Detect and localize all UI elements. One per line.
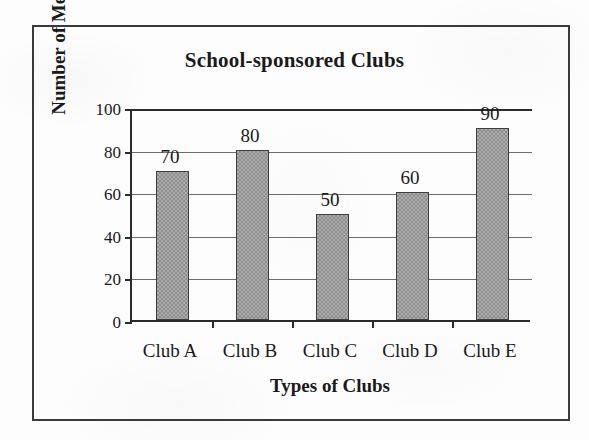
y-tick-label-100: 100 — [96, 101, 122, 118]
bar-club-a — [156, 171, 189, 320]
y-tick-label-0: 0 — [113, 314, 122, 331]
x-category-label-club-c: Club C — [303, 341, 357, 360]
bar-value-club-b: 80 — [241, 126, 260, 145]
y-tick-20 — [125, 279, 132, 281]
bar-club-e — [476, 128, 509, 320]
chart-page: School-sponsored Clubs Number of Members… — [0, 0, 589, 440]
y-tick-label-80: 80 — [104, 143, 121, 160]
y-tick-label-60: 60 — [104, 186, 121, 203]
y-tick-40 — [125, 237, 132, 239]
x-tick-4 — [452, 320, 454, 328]
y-tick-60 — [125, 194, 132, 196]
plot-area: 020406080100 — [130, 109, 530, 322]
gridline-80 — [132, 152, 532, 153]
bar-value-club-e: 90 — [481, 104, 500, 123]
x-tick-3 — [372, 320, 374, 328]
chart-title: School-sponsored Clubs — [0, 48, 589, 73]
bar-club-c — [316, 214, 349, 321]
y-tick-label-20: 20 — [104, 271, 121, 288]
x-tick-2 — [292, 320, 294, 328]
gridline-100 — [132, 109, 532, 111]
bar-value-club-c: 50 — [321, 190, 340, 209]
bar-value-club-a: 70 — [161, 147, 180, 166]
y-tick-80 — [125, 152, 132, 154]
x-category-label-club-b: Club B — [223, 341, 277, 360]
bar-club-b — [236, 150, 269, 320]
y-tick-0 — [125, 322, 132, 324]
y-tick-label-40: 40 — [104, 228, 121, 245]
y-tick-100 — [125, 109, 132, 111]
y-axis-title: Number of Members — [46, 0, 72, 136]
x-axis-title: Types of Clubs — [130, 375, 530, 397]
x-category-label-club-d: Club D — [382, 341, 437, 360]
bar-club-d — [396, 192, 429, 320]
x-category-label-club-a: Club A — [143, 341, 197, 360]
x-category-label-club-e: Club E — [463, 341, 516, 360]
bar-value-club-d: 60 — [401, 168, 420, 187]
x-tick-1 — [212, 320, 214, 328]
